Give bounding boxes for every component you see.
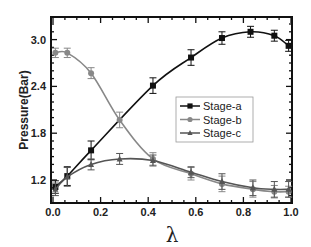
x-tick-label: 0.4: [141, 206, 157, 218]
y-tick-label: 1.2: [31, 174, 46, 186]
data-point: [117, 117, 123, 123]
data-point: [286, 43, 292, 49]
data-point: [88, 70, 94, 76]
series-layer: [52, 26, 292, 198]
data-point: [88, 147, 94, 153]
x-tick-label: 0.8: [236, 206, 251, 218]
y-axis-title: Pressure(Bar): [17, 70, 31, 149]
legend-label: Stage-a: [203, 100, 242, 112]
plot-border: [51, 17, 292, 203]
data-point: [248, 29, 254, 35]
data-point: [219, 35, 225, 41]
y-tick-label: 2.4: [31, 80, 47, 92]
square-marker-icon: [187, 103, 192, 108]
legend: Stage-aStage-bStage-c: [176, 97, 253, 142]
data-point: [271, 33, 277, 39]
data-point: [64, 50, 70, 56]
plot-area: [51, 17, 292, 203]
data-point: [52, 50, 58, 56]
legend-label: Stage-c: [203, 127, 241, 139]
x-tick-label: 0.6: [188, 206, 203, 218]
data-point: [150, 83, 156, 89]
x-axis-title: λ: [166, 223, 179, 247]
circle-marker-icon: [187, 117, 192, 122]
x-tick-label: 0.0: [45, 206, 60, 218]
x-axis: 0.00.20.40.60.81.0: [45, 17, 298, 218]
x-tick-label: 1.0: [283, 206, 298, 218]
y-tick-label: 3.0: [31, 34, 46, 46]
legend-label: Stage-b: [203, 114, 242, 126]
pressure-line-chart: 0.00.20.40.60.81.0 1.21.82.43.0 Pressure…: [0, 0, 311, 247]
y-tick-label: 1.8: [31, 127, 46, 139]
x-tick-label: 0.2: [93, 206, 108, 218]
data-point: [188, 55, 194, 61]
